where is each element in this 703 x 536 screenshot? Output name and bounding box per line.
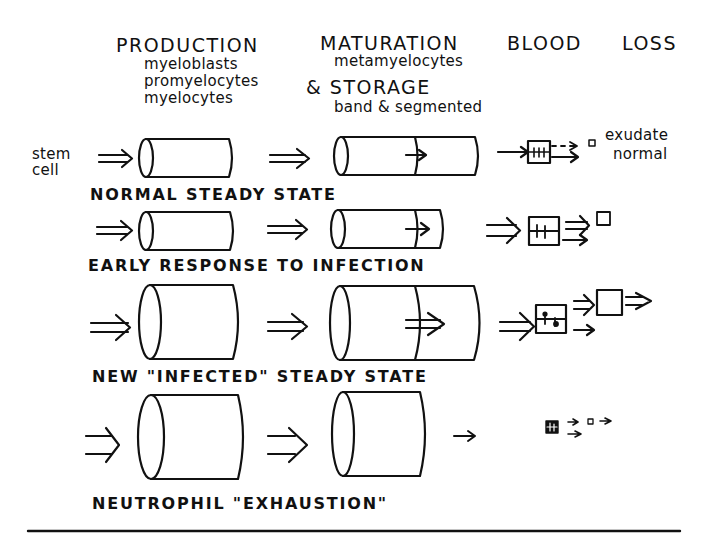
exudate-marker-icon	[589, 140, 595, 146]
row4-blood-flow-icon	[546, 418, 611, 437]
diagram-graphics	[0, 0, 703, 536]
row3-maturation-cylinder-icon	[330, 286, 480, 360]
row2-transfer-arrow-icon	[268, 220, 307, 239]
row3-production-cylinder-icon	[139, 285, 238, 359]
row4-transfer-arrow-icon	[268, 428, 307, 462]
row1-maturation-cylinder-icon	[334, 137, 478, 175]
row2-production-cylinder-icon	[139, 212, 233, 250]
row4-output-arrow-icon	[454, 431, 475, 441]
row1-production-cylinder-icon	[139, 139, 232, 177]
row2-maturation-cylinder-icon	[331, 210, 443, 248]
row2-exudate-box-icon	[597, 212, 610, 225]
row4-maturation-cylinder-icon	[332, 392, 425, 476]
row1-stem-arrow-icon	[99, 150, 132, 167]
row1-blood-flow-icon	[498, 140, 595, 163]
row4-stem-arrow-icon	[86, 428, 119, 462]
row2-stem-arrow-icon	[97, 221, 132, 240]
row3-blood-flow-icon	[500, 290, 651, 340]
row1-transfer-arrow-icon	[270, 149, 309, 168]
row3-stem-arrow-icon	[91, 315, 130, 340]
row2-blood-flow-icon	[487, 212, 610, 245]
row4-production-cylinder-icon	[138, 395, 243, 479]
row3-transfer-arrow-icon	[268, 314, 307, 339]
